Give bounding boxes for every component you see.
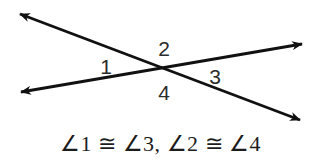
geometry-figure: 1 2 3 4 ∠1 ≅ ∠3, ∠2 ≅ ∠4 <box>0 0 321 167</box>
angle-label-4: 4 <box>158 82 170 103</box>
angle-label-2: 2 <box>158 38 170 59</box>
angle-label-1: 1 <box>100 56 112 77</box>
figure-caption: ∠1 ≅ ∠3, ∠2 ≅ ∠4 <box>0 131 321 157</box>
angle-label-3: 3 <box>209 66 221 87</box>
